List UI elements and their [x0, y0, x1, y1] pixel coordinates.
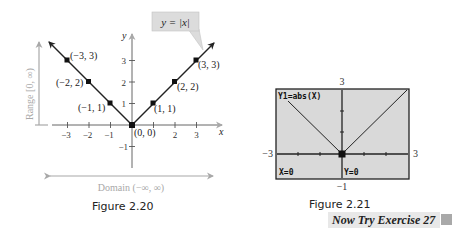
point-neg2-2 [86, 79, 91, 84]
domain-annotation: Domain (−∞, ∞) [50, 176, 213, 194]
x-tick-label: −2 [83, 130, 93, 140]
data-points [65, 58, 199, 129]
point-neg3-3 [65, 58, 70, 63]
range-label: Range [0, ∞) [24, 68, 36, 120]
y-tick-label: −1 [118, 142, 128, 152]
x-axis-label: x [218, 126, 224, 137]
point-label: (0, 0) [134, 127, 156, 139]
calc-y-readout: Y=0 [344, 168, 359, 177]
point-label: (3, 3) [198, 59, 220, 71]
figure-canvas: Range [0, ∞) x y −3 −2 −1 2 3 [0, 0, 456, 234]
point-label: (−2, 2) [56, 77, 83, 89]
y-tick-label: 1 [122, 99, 127, 109]
calc-xmin-label: −3 [262, 148, 273, 159]
domain-label: Domain (−∞, ∞) [98, 182, 164, 194]
point-neg1-1 [108, 101, 113, 106]
figure-2-20-caption: Figure 2.20 [92, 200, 154, 213]
figure-2-20: Range [0, ∞) x y −3 −2 −1 2 3 [24, 12, 224, 194]
exercise-marker [441, 214, 452, 225]
point-label: (2, 2) [177, 81, 199, 93]
y-tick-label: 2 [122, 78, 127, 88]
x-tick-label: 3 [194, 130, 199, 140]
x-tick-label: 2 [173, 130, 178, 140]
y-tick-label: 3 [122, 56, 127, 66]
calc-equation-label: Y1=abs(X) [278, 92, 321, 101]
point-label: (−3, 3) [70, 50, 97, 62]
calc-ymax-label: 3 [340, 76, 345, 87]
point-label: (−1, 1) [78, 102, 105, 114]
equation-callout: y = |x| [152, 12, 203, 50]
calc-x-readout: X=0 [279, 168, 294, 177]
x-tick-label: −3 [61, 130, 71, 140]
now-try-exercise: Now Try Exercise 27 [328, 212, 440, 228]
range-annotation: Range [0, ∞) [24, 42, 48, 125]
figure-2-21: Y1=abs(X) X=0 Y=0 3 −1 −3 3 [262, 76, 418, 192]
calc-xmax-label: 3 [413, 148, 418, 159]
point-label: (1, 1) [154, 103, 176, 115]
y-axis-label: y [121, 30, 127, 41]
x-tick-labels: −3 −2 −1 2 3 [61, 130, 199, 140]
calc-cursor [339, 151, 346, 158]
calc-ymin-label: −1 [337, 181, 348, 192]
equation-label: y = |x| [160, 16, 190, 28]
x-tick-label: −1 [104, 130, 114, 140]
figure-2-21-caption: Figure 2.21 [309, 198, 371, 211]
point-labels: (−3, 3) (−2, 2) (−1, 1) (0, 0) (1, 1) (2… [56, 50, 220, 139]
y-tick-labels: 3 2 1 −1 [118, 56, 128, 152]
